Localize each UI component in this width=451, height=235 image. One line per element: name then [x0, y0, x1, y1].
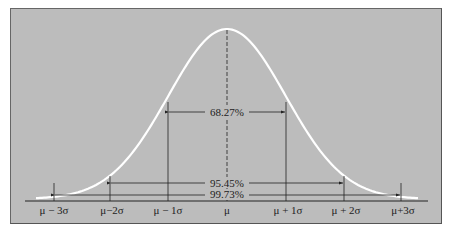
axis-label-mu-plus-1sigma: μ + 1σ [273, 204, 302, 216]
axis-label-mu-plus-2sigma: μ + 2σ [331, 204, 360, 216]
axis-label-mu-minus-1sigma: μ − 1σ [153, 204, 182, 216]
interval-68-label: 68.27% [210, 106, 244, 118]
axis-label-mu-minus-2sigma: μ−2σ [100, 204, 124, 216]
axis-label-mu: μ [224, 204, 230, 216]
normal-distribution-diagram: 68.27% 95.45% 99.73% μ − 3σ μ−2σ μ − 1σ … [0, 0, 451, 235]
axis-label-mu-minus-3sigma: μ − 3σ [39, 204, 68, 216]
interval-99-label: 99.73% [210, 188, 244, 200]
axis-label-mu-plus-3sigma: μ+3σ [391, 204, 415, 216]
